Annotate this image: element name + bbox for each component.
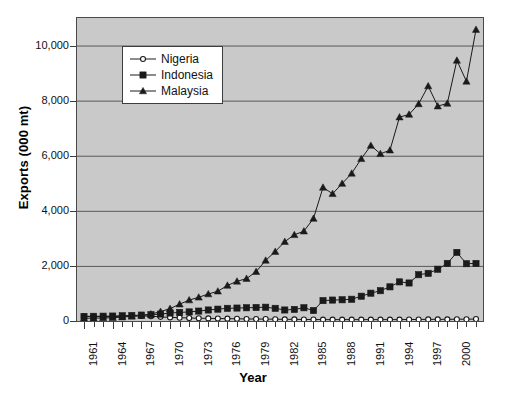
series-indonesia: [81, 249, 479, 319]
x-tick-label: 1982: [289, 342, 300, 366]
x-tick-label: 1973: [203, 342, 214, 366]
filled-triangle-icon: [128, 84, 158, 98]
x-tick-mark: [84, 322, 85, 329]
y-tick-mark: [70, 46, 76, 47]
x-tick-label: 1964: [117, 342, 128, 366]
y-tick-label: 10,000: [5, 40, 69, 51]
x-tick-label: 1994: [404, 342, 415, 366]
x-tick-mark: [256, 322, 257, 329]
x-tick-mark: [342, 322, 343, 329]
x-tick-mark: [113, 322, 114, 329]
y-tick-mark: [70, 266, 76, 267]
x-tick-mark: [333, 322, 334, 327]
x-tick-mark: [304, 322, 305, 327]
x-tick-mark: [457, 322, 458, 329]
legend-label: Malaysia: [161, 84, 208, 98]
y-tick-mark: [70, 156, 76, 157]
x-tick-mark: [361, 322, 362, 327]
x-tick-mark: [247, 322, 248, 327]
x-axis-labels: 1961196419671970197319761979198219851988…: [76, 330, 484, 372]
x-tick-mark: [151, 322, 152, 327]
y-tick-mark: [70, 101, 76, 102]
x-tick-mark: [438, 322, 439, 327]
y-axis-labels: 02,0004,0006,0008,00010,000: [0, 0, 69, 397]
x-tick-label: 1988: [346, 342, 357, 366]
x-tick-mark: [160, 322, 161, 327]
y-tick-label: 2,000: [5, 260, 69, 271]
x-axis-ticks: [76, 322, 484, 328]
x-tick-label: 1967: [145, 342, 156, 366]
x-tick-label: 1976: [231, 342, 242, 366]
x-tick-label: 1961: [88, 342, 99, 366]
x-axis-title: Year: [0, 370, 506, 385]
x-tick-mark: [94, 322, 95, 327]
open-circle-icon: [128, 52, 158, 66]
filled-square-icon: [128, 68, 158, 82]
legend-label: Indonesia: [161, 68, 213, 82]
legend-item-indonesia: Indonesia: [128, 67, 213, 83]
y-tick-mark: [70, 321, 76, 322]
legend-item-malaysia: Malaysia: [128, 83, 213, 99]
x-tick-mark: [285, 322, 286, 329]
y-tick-label: 0: [5, 315, 69, 326]
x-tick-mark: [380, 322, 381, 327]
x-tick-mark: [447, 322, 448, 327]
x-tick-mark: [122, 322, 123, 327]
x-tick-mark: [466, 322, 467, 327]
legend-label: Nigeria: [161, 52, 199, 66]
x-tick-mark: [476, 322, 477, 327]
x-tick-mark: [208, 322, 209, 327]
exports-line-chart: 02,0004,0006,0008,00010,000 Exports (000…: [0, 0, 506, 397]
x-tick-mark: [390, 322, 391, 327]
x-tick-mark: [371, 322, 372, 329]
x-tick-label: 1985: [317, 342, 328, 366]
x-tick-mark: [170, 322, 171, 329]
x-tick-mark: [428, 322, 429, 329]
x-tick-mark: [237, 322, 238, 327]
x-tick-mark: [266, 322, 267, 327]
x-tick-mark: [141, 322, 142, 329]
x-tick-label: 1997: [432, 342, 443, 366]
x-tick-mark: [275, 322, 276, 327]
x-tick-mark: [294, 322, 295, 327]
x-tick-mark: [103, 322, 104, 327]
x-tick-mark: [400, 322, 401, 329]
x-tick-mark: [180, 322, 181, 327]
legend-item-nigeria: Nigeria: [128, 51, 213, 67]
x-tick-mark: [199, 322, 200, 329]
x-tick-label: 1991: [375, 342, 386, 366]
y-axis-title: Exports (000 mt): [16, 73, 31, 243]
x-tick-mark: [323, 322, 324, 327]
x-tick-mark: [227, 322, 228, 329]
x-tick-mark: [409, 322, 410, 327]
x-tick-mark: [352, 322, 353, 327]
x-tick-label: 1970: [174, 342, 185, 366]
x-tick-label: 1979: [260, 342, 271, 366]
x-tick-mark: [132, 322, 133, 327]
x-tick-mark: [313, 322, 314, 329]
x-tick-mark: [218, 322, 219, 327]
chart-legend: NigeriaIndonesiaMalaysia: [122, 46, 223, 104]
x-tick-mark: [189, 322, 190, 327]
x-tick-label: 2000: [461, 342, 472, 366]
y-tick-mark: [70, 211, 76, 212]
x-tick-mark: [419, 322, 420, 327]
